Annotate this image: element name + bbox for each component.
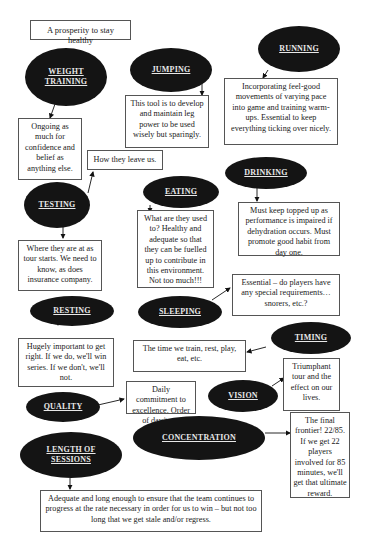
vision-node[interactable]: VISION	[208, 380, 278, 412]
testing-note-down: Where they are at as tour starts. We nee…	[18, 240, 102, 291]
vision-note: Triumphant tour and the effect on our li…	[283, 358, 340, 411]
sleeping-label: SLEEPING	[159, 307, 201, 317]
jumping-node[interactable]: JUMPING	[130, 48, 212, 92]
weight-training-note: Ongoing as much for confidence and belie…	[18, 118, 82, 180]
weight-training-label: WEIGHT TRAINING	[38, 67, 94, 87]
timing-label: TIMING	[295, 333, 327, 343]
running-node[interactable]: RUNNING	[258, 26, 340, 72]
drinking-label: DRINKING	[244, 168, 287, 178]
timing-note: The time we train, rest, play, eat, etc.	[133, 340, 246, 372]
quality-note: Daily commitment to excellence. Order of…	[126, 381, 196, 414]
sleeping-node[interactable]: SLEEPING	[138, 296, 222, 328]
resting-label: RESTING	[53, 306, 90, 316]
length-of-sessions-node[interactable]: LENGTH OF SESSIONS	[20, 432, 122, 478]
title-box: A prosperity to stay healthy	[30, 20, 131, 40]
drinking-node[interactable]: DRINKING	[225, 157, 307, 189]
vision-label: VISION	[228, 391, 258, 401]
length-of-sessions-label: LENGTH OF SESSIONS	[41, 445, 101, 465]
testing-label: TESTING	[39, 200, 76, 210]
eating-node[interactable]: EATING	[143, 176, 219, 208]
resting-note: Hugely important to get right. If we do,…	[18, 338, 114, 387]
length-of-sessions-note: Adequate and long enough to ensure that …	[40, 490, 262, 532]
running-label: RUNNING	[279, 44, 319, 54]
eating-label: EATING	[165, 187, 197, 197]
jumping-note: This tool is to develop and maintain leg…	[125, 95, 209, 148]
resting-node[interactable]: RESTING	[30, 296, 114, 326]
concentration-node[interactable]: CONCENTRATION	[133, 416, 265, 460]
weight-training-node[interactable]: WEIGHT TRAINING	[25, 48, 107, 106]
concentration-label: CONCENTRATION	[162, 433, 236, 443]
quality-node[interactable]: QUALITY	[26, 392, 100, 422]
quality-label: QUALITY	[44, 402, 83, 412]
concentration-note: The final frontier! 22/85. If we get 22 …	[290, 412, 350, 498]
eating-note: What are they used to? Healthy and adequ…	[137, 210, 214, 288]
jumping-label: JUMPING	[152, 65, 191, 75]
drinking-note: Must keep topped up as performance is im…	[238, 202, 340, 256]
testing-node[interactable]: TESTING	[24, 182, 90, 228]
running-note: Incorporating feel-good movements of var…	[224, 78, 338, 145]
timing-node[interactable]: TIMING	[271, 322, 351, 354]
sleeping-note: Essential – do players have any special …	[232, 274, 340, 316]
testing-note-up: How they leave us.	[87, 150, 163, 170]
